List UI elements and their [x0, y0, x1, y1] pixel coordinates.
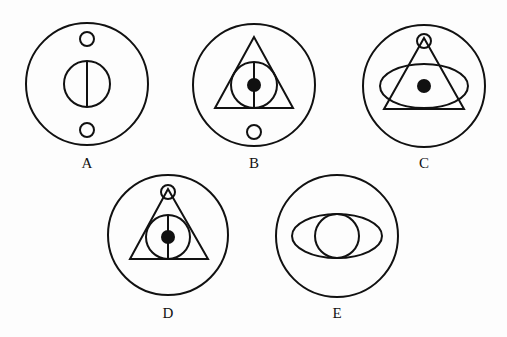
label-a: A: [82, 155, 93, 171]
figure-c: [363, 25, 485, 147]
inner-circle: [315, 214, 359, 258]
label-e: E: [332, 305, 341, 321]
small-circle-bottom: [80, 123, 94, 137]
figure-a: [26, 23, 148, 145]
label-b: B: [249, 155, 259, 171]
figure-b: [193, 24, 315, 146]
small-circle-bottom: [247, 125, 261, 139]
filled-dot: [161, 230, 175, 244]
label-d: D: [163, 305, 174, 321]
ellipse: [292, 214, 382, 258]
figure-d: [108, 175, 228, 295]
filled-dot: [247, 78, 261, 92]
small-circle-top: [80, 32, 94, 46]
filled-dot: [417, 79, 431, 93]
outer-circle: [276, 175, 398, 297]
figure-e: [276, 175, 398, 297]
figure-diagram: A B C D E: [0, 0, 507, 337]
label-c: C: [419, 155, 429, 171]
